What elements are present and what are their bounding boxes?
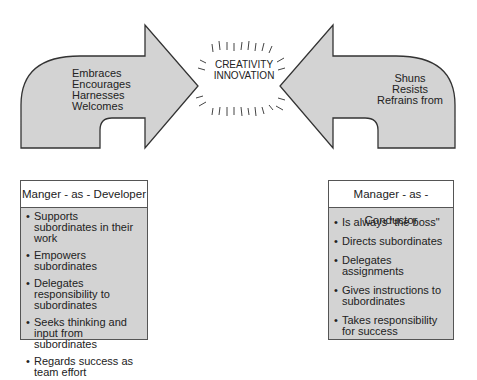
list-item: Delegates assignments bbox=[334, 255, 449, 277]
right-word: Refrains from bbox=[350, 95, 470, 106]
list-item: Seeks thinking and input from subordinat… bbox=[26, 317, 143, 350]
list-item: Empowers subordinates bbox=[26, 250, 143, 272]
list-item: Regards success as team effort bbox=[26, 356, 143, 378]
list-item: Directs subordinates bbox=[334, 236, 449, 247]
right-arrow-words: Shuns Resists Refrains from bbox=[350, 73, 470, 106]
developer-list: Supports subordinates in their work Empo… bbox=[21, 208, 147, 380]
list-item: Gives instructions to subordinates bbox=[334, 285, 449, 307]
list-item: Takes responsibility for success bbox=[334, 315, 449, 337]
list-item: Is always "the boss" bbox=[334, 217, 449, 228]
center-label-innovation: INNOVATION bbox=[205, 70, 283, 81]
conductor-box-title: Manager - as - Conductor bbox=[329, 181, 453, 208]
left-arrow-words: Embraces Encourages Harnesses Welcomes bbox=[72, 68, 131, 112]
developer-box-title: Manger - as - Developer bbox=[21, 181, 147, 208]
list-item: Supports subordinates in their work bbox=[26, 211, 143, 244]
conductor-box: Manager - as - Conductor Is always "the … bbox=[328, 180, 454, 340]
left-word: Welcomes bbox=[72, 101, 131, 112]
developer-box: Manger - as - Developer Supports subordi… bbox=[20, 180, 148, 340]
center-label: CREATIVITY INNOVATION bbox=[205, 59, 283, 81]
list-item: Delegates responsibility to subordinates bbox=[26, 278, 143, 311]
center-label-creativity: CREATIVITY bbox=[205, 59, 283, 70]
